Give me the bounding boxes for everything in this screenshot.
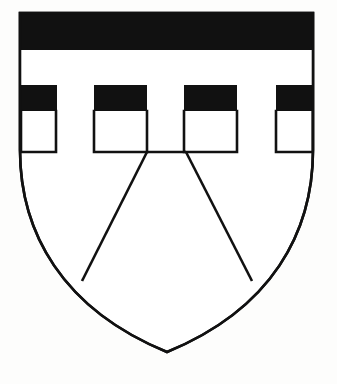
merlon-4: [276, 85, 313, 111]
chief-sable-upper-bar: [20, 13, 313, 50]
merlon-1: [20, 85, 57, 111]
merlon-3: [184, 85, 237, 111]
merlon-2: [94, 85, 147, 111]
coat-of-arms-canvas: Coat of arms: shield with embattled chie…: [0, 0, 337, 384]
fess-argent-middle-stripe: [20, 50, 313, 85]
coat-of-arms-figure: Coat of arms: shield with embattled chie…: [0, 0, 337, 384]
